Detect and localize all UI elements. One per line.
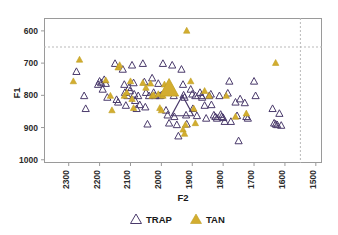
x-tick-label-2200: 2200 [92, 170, 102, 189]
x-tick-label-1500: 1500 [308, 170, 318, 189]
x-tick-label-2300: 2300 [61, 170, 71, 189]
x-tick-label-1800: 1800 [215, 170, 225, 189]
y-tick-label-900: 900 [24, 123, 38, 133]
plot-svg: 230022002100200019001800170016001500 600… [0, 0, 338, 235]
x-tick-label-1900: 1900 [184, 170, 194, 189]
x-tick-label-2100: 2100 [122, 170, 132, 189]
x-tick-label-1600: 1600 [277, 170, 287, 189]
scatter-plot-figure: 230022002100200019001800170016001500 600… [0, 0, 338, 235]
legend-label-tan: TAN [206, 214, 225, 225]
x-tick-label-1700: 1700 [246, 170, 256, 189]
x-tick-label-2000: 2000 [153, 170, 163, 189]
y-axis-title: F1 [11, 87, 22, 99]
y-tick-label-800: 800 [24, 90, 38, 100]
y-tick-label-1000: 1000 [19, 155, 38, 165]
legend-label-trap: TRAP [146, 214, 173, 225]
y-tick-label-700: 700 [24, 58, 38, 68]
x-axis-title: F2 [177, 192, 188, 203]
y-tick-label-600: 600 [24, 26, 38, 36]
